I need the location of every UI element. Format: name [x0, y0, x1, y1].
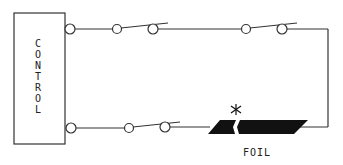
switch-bottom-contact-a — [125, 124, 134, 133]
switch-bottom-contact-b — [160, 122, 170, 132]
control-label: C O N T R O L — [31, 38, 45, 115]
switch-bottom-blade — [133, 122, 180, 127]
foil-strip — [208, 120, 308, 134]
switch-top-1-contact-a — [113, 25, 122, 34]
foil-piece-left — [208, 120, 236, 134]
foil-label: FOIL — [243, 147, 271, 158]
foil-piece-right — [237, 120, 308, 134]
switch-top-1-contact-b — [148, 24, 158, 34]
switch-top-2-blade — [250, 23, 297, 28]
switch-top-1-blade — [121, 23, 168, 28]
break-asterisk-icon — [231, 104, 241, 115]
circuit-diagram — [0, 0, 343, 165]
terminal-bottom — [66, 123, 76, 133]
switch-top-2-contact-b — [277, 24, 287, 34]
switch-top-2-contact-a — [242, 25, 251, 34]
terminal-top — [65, 24, 75, 34]
